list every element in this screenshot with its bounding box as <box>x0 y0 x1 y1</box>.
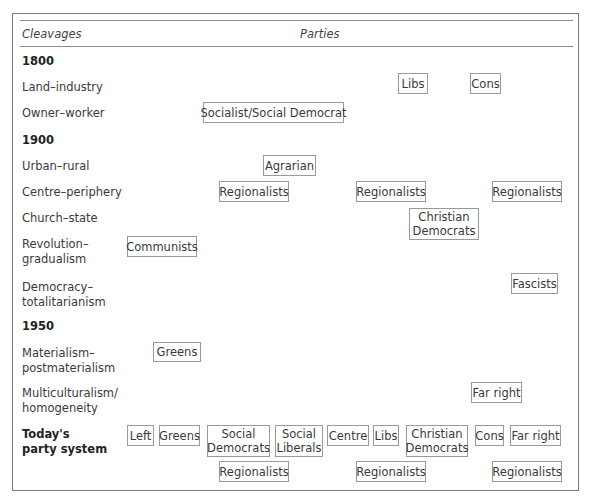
label-line: Social <box>282 427 316 441</box>
top-rule <box>20 20 573 21</box>
party-box-communists: Communists <box>127 236 197 257</box>
party-box-greens: Greens <box>153 342 201 362</box>
label-line: Multiculturalism/ <box>22 386 118 401</box>
label-line: homogeneity <box>22 401 118 416</box>
today-box-centre: Centre <box>327 425 369 446</box>
label-line: Materialism– <box>22 346 115 361</box>
today-box-far-right: Far right <box>510 425 561 446</box>
label-line: Liberals <box>277 441 322 455</box>
label-line: Christian <box>411 427 462 441</box>
today-box-libs: Libs <box>373 425 399 446</box>
today-party-system-label: Today's party system <box>22 427 107 457</box>
header-cleavages: Cleavages <box>22 27 82 42</box>
today-box-social-liberals: Social Liberals <box>275 425 323 457</box>
label-line: postmaterialism <box>22 361 115 376</box>
year-1950: 1950 <box>22 319 54 334</box>
party-box-regionalists-3: Regionalists <box>492 181 562 202</box>
party-box-regionalists-1: Regionalists <box>219 181 289 202</box>
year-1900: 1900 <box>22 133 54 148</box>
cleavage-multiculturalism-homogeneity: Multiculturalism/ homogeneity <box>22 386 118 416</box>
header-parties: Parties <box>300 27 339 42</box>
label-line: Democracy– <box>22 280 106 295</box>
label-line: gradualism <box>22 252 89 267</box>
today-box-greens: Greens <box>159 425 200 446</box>
today-box-cons: Cons <box>475 425 504 446</box>
cleavage-centre-periphery: Centre–periphery <box>22 185 122 200</box>
cleavage-materialism-postmaterialism: Materialism– postmaterialism <box>22 346 115 376</box>
party-box-agrarian: Agrarian <box>263 155 316 176</box>
label-line: Revolution– <box>22 237 89 252</box>
label-line: Social <box>221 427 255 441</box>
label-line: Democrats <box>207 441 270 455</box>
party-box-fascists: Fascists <box>511 273 558 294</box>
label-line: party system <box>22 442 107 457</box>
cleavage-church-state: Church–state <box>22 211 98 226</box>
today-box-regionalists-1: Regionalists <box>219 461 289 482</box>
label-line: Christian <box>418 210 469 224</box>
party-box-libs: Libs <box>398 73 428 94</box>
label-line: totalitarianism <box>22 295 106 310</box>
label-line: Today's <box>22 427 107 442</box>
year-1800: 1800 <box>22 54 54 69</box>
cleavage-land-industry: Land–industry <box>22 80 103 95</box>
party-box-socialist: Socialist/Social Democrat <box>203 102 344 123</box>
cleavage-democracy-totalitarianism: Democracy– totalitarianism <box>22 280 106 310</box>
cleavage-urban-rural: Urban–rural <box>22 159 90 174</box>
header-rule <box>20 46 573 47</box>
label-line: Democrats <box>406 441 469 455</box>
party-box-cons: Cons <box>470 73 501 94</box>
cleavage-owner-worker: Owner–worker <box>22 106 105 121</box>
today-box-social-democrats: Social Democrats <box>207 425 270 457</box>
today-box-regionalists-2: Regionalists <box>356 461 426 482</box>
today-box-christian-democrats: Christian Democrats <box>406 425 468 457</box>
label-line: Democrats <box>413 224 476 238</box>
party-box-christian-democrats: Christian Democrats <box>409 208 479 240</box>
cleavage-revolution-gradualism: Revolution– gradualism <box>22 237 89 267</box>
party-box-regionalists-2: Regionalists <box>356 181 426 202</box>
party-box-far-right: Far right <box>471 382 522 403</box>
today-box-regionalists-3: Regionalists <box>492 461 562 482</box>
today-box-left: Left <box>127 425 154 446</box>
